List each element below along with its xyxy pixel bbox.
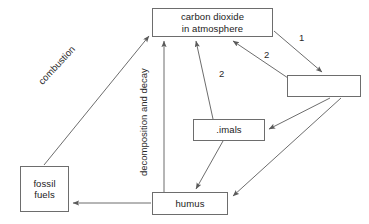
node-humus-label: humus [175, 198, 204, 210]
node-animals: .imals [193, 119, 265, 141]
node-blank [287, 75, 361, 97]
node-humus: humus [152, 192, 228, 215]
node-fossil-fuels: fossil fuels [20, 166, 69, 212]
edge-label-one: 1 [299, 32, 304, 43]
edge-label-two-middle: 2 [219, 68, 224, 79]
carbon-cycle-diagram: carbon dioxide in atmosphere .imals foss… [0, 0, 369, 224]
edge-animals-to-co2 [196, 41, 213, 119]
edge-blank-to-humus [233, 98, 341, 196]
edge-blank-to-animals [269, 98, 330, 129]
edge-co2-to-blank [274, 31, 322, 72]
edge-blank-to-co2 [233, 41, 288, 78]
node-animals-label: .imals [216, 124, 241, 136]
node-fossil-fuels-label: fossil fuels [33, 178, 55, 201]
node-carbon-dioxide: carbon dioxide in atmosphere [152, 8, 273, 37]
edge-label-two-right: 2 [264, 49, 269, 60]
edge-animals-to-humus [196, 141, 223, 189]
edge-label-decomposition: decomposition and decay [138, 68, 149, 176]
node-carbon-dioxide-label: carbon dioxide in atmosphere [181, 11, 244, 34]
